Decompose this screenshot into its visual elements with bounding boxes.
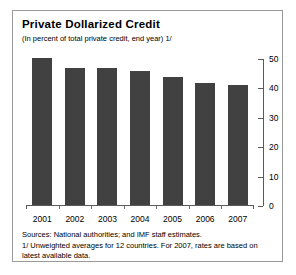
y-tick-40	[258, 88, 263, 89]
bar-group	[26, 49, 254, 205]
chart-panel: Private Dollarized Credit (In percent of…	[12, 10, 283, 262]
x-tick	[59, 206, 60, 209]
y-axis-label-50: 50	[269, 55, 278, 63]
bar-slot	[59, 49, 92, 205]
bar-slot	[156, 49, 189, 205]
x-tick	[189, 206, 190, 209]
y-axis-label-0: 0	[269, 202, 274, 210]
bar-2004	[130, 71, 150, 205]
plot-area	[26, 49, 254, 205]
y-axis-label-40: 40	[269, 84, 278, 92]
y-axis-line	[263, 59, 264, 206]
x-axis-label-2005: 2005	[156, 214, 190, 224]
y-tick-10	[258, 177, 263, 178]
x-axis-label-2003: 2003	[90, 214, 124, 224]
footnotes: Sources: National authorities; and IMF s…	[22, 230, 274, 262]
y-axis-label-30: 30	[269, 114, 278, 122]
y-tick-0	[258, 206, 263, 207]
bar-slot	[124, 49, 157, 205]
bar-2001	[32, 58, 52, 205]
footnote-note: 1/ Unweighted averages for 12 countries.…	[22, 241, 274, 262]
y-tick-20	[258, 147, 263, 148]
x-axis-line	[26, 205, 254, 206]
y-tick-50	[258, 59, 263, 60]
bar-slot	[91, 49, 124, 205]
chart-subtitle: (In percent of total private credit, end…	[22, 34, 172, 43]
x-tick	[221, 206, 222, 209]
bar-2005	[163, 77, 183, 205]
x-axis-label-2007: 2007	[221, 214, 255, 224]
y-tick-30	[258, 118, 263, 119]
bar-slot	[189, 49, 222, 205]
footnote-sources: Sources: National authorities; and IMF s…	[22, 230, 274, 241]
x-tick	[124, 206, 125, 209]
x-axis-label-2002: 2002	[58, 214, 92, 224]
bar-2003	[97, 68, 117, 205]
bar-slot	[26, 49, 59, 205]
x-axis-label-2006: 2006	[188, 214, 222, 224]
x-axis-left-cap	[26, 205, 27, 209]
x-axis-label-2001: 2001	[25, 214, 59, 224]
x-axis-label-2004: 2004	[123, 214, 157, 224]
y-axis-label-10: 10	[269, 173, 278, 181]
bar-2002	[65, 68, 85, 205]
x-tick	[91, 206, 92, 209]
bar-slot	[221, 49, 254, 205]
x-tick	[156, 206, 157, 209]
bar-2006	[195, 83, 215, 205]
x-axis-right-cap	[253, 205, 254, 209]
y-axis-label-20: 20	[269, 143, 278, 151]
bar-2007	[228, 85, 248, 205]
chart-title: Private Dollarized Credit	[22, 18, 160, 30]
